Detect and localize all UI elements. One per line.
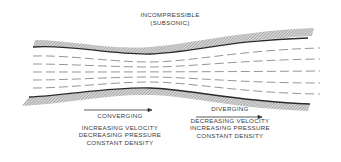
title-line-1: INCOMPRESSIBLE: [130, 11, 210, 19]
converging-line-1: INCREASING VELOCITY: [70, 124, 170, 132]
diverging-label: DIVERGING DECREASING VELOCITY INCREASING…: [180, 105, 280, 139]
diverging-line-3: CONSTANT DENSITY: [180, 132, 280, 140]
diverging-line-2: INCREASING PRESSURE: [180, 124, 280, 132]
converging-line-2: DECREASING PRESSURE: [70, 131, 170, 139]
diverging-heading: DIVERGING: [180, 105, 280, 113]
title-line-2: (SUBSONIC): [130, 19, 210, 27]
diagram-title: INCOMPRESSIBLE (SUBSONIC): [130, 11, 210, 26]
diverging-line-1: DECREASING VELOCITY: [180, 117, 280, 125]
streamlines: [33, 48, 320, 94]
converging-line-3: CONSTANT DENSITY: [70, 139, 170, 147]
streamline-4: [33, 77, 320, 83]
converging-label: CONVERGING INCREASING VELOCITY DECREASIN…: [70, 112, 170, 146]
streamline-3: [33, 71, 320, 72]
converging-heading: CONVERGING: [70, 112, 170, 120]
